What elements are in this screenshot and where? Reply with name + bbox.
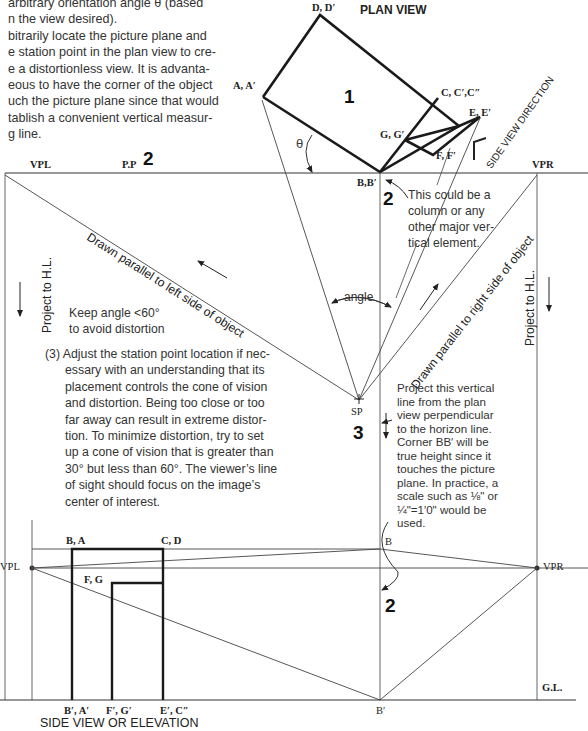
note-line: view perpendicular: [397, 408, 498, 422]
intro-line: arbitrary orientation angle θ (based: [8, 0, 258, 11]
column-step-number: 2: [383, 188, 394, 210]
label-b: B,B′: [357, 177, 377, 188]
label-g: G, G′: [380, 129, 405, 140]
gl-label: G.L.: [542, 682, 562, 693]
theta-label: θ: [296, 136, 303, 151]
note-line: other major ver-: [408, 219, 494, 235]
vpr-label: VPR: [532, 159, 554, 170]
note-line: touches the picture: [397, 462, 498, 476]
note-line: true height since it: [397, 449, 498, 463]
para-line: placement controls the cone of vision: [45, 379, 277, 395]
note-line: tical element.: [408, 235, 494, 251]
label-d: D, D′: [312, 2, 335, 13]
note-line: scale such as ⅛" or: [397, 489, 498, 503]
para-line: center of interest.: [45, 494, 277, 510]
project-vertical-note: Project this vertical line from the plan…: [397, 381, 498, 530]
intro-line: g line.: [8, 126, 258, 142]
para-line: far away can result in extreme distor-: [45, 412, 277, 428]
note-line: This could be a: [408, 187, 494, 203]
note-line: ¼"=1′0" would be: [397, 503, 498, 517]
para-line: of sight should focus on the image’s: [45, 477, 277, 493]
label-c: C, C′,C″: [441, 87, 480, 98]
elev-vpr-label: VPR: [543, 561, 563, 572]
pp-label: P.P: [122, 159, 137, 170]
sp-step-number: 3: [353, 422, 364, 444]
para-line: essary with an understanding that its: [45, 362, 277, 378]
intro-line: eous to have the corner of the object: [8, 77, 258, 93]
label-bottom-ba: B′, A′: [64, 705, 89, 716]
label-bottom-ec: E′, C″: [160, 705, 189, 716]
intro-line: uch the picture plane since that would: [8, 93, 258, 109]
para-line: up a cone of vision that is greater than: [45, 444, 277, 460]
para-line: (3) Adjust the station point location if…: [45, 346, 277, 362]
elev-vpl-label: VPL: [0, 561, 20, 572]
vpl-label: VPL: [30, 159, 51, 170]
pp-step-number: 2: [143, 148, 154, 170]
intro-line: bitrarily locate the picture plane and: [8, 28, 258, 44]
label-b-top: B: [385, 536, 392, 547]
note-line: to avoid distortion: [69, 321, 165, 337]
label-cd: C, D: [161, 535, 181, 546]
label-f: F, F′: [436, 150, 456, 161]
note-line: used.: [397, 516, 498, 530]
project-right-label: Project to H.L.: [523, 270, 537, 346]
intro-line: e a distortionless view. It is advanta-: [8, 61, 258, 77]
sp-label: SP: [351, 406, 363, 417]
para-line: 30° but less than 60°. The viewer’s line: [45, 461, 277, 477]
note-line: plane. In practice, a: [397, 476, 498, 490]
elev-step-number: 2: [385, 595, 396, 617]
note-line: Corner BB′ will be: [397, 435, 498, 449]
intro-line: tablish a convenient vertical measur-: [8, 110, 258, 126]
column-note: This could be a column or any other majo…: [408, 187, 494, 251]
perspective-construction-diagram: arbitrary orientation angle θ (based n t…: [0, 0, 588, 731]
label-fg: F, G: [84, 574, 103, 585]
plan-view-title: PLAN VIEW: [360, 3, 427, 17]
label-ba: B, A: [66, 535, 85, 546]
elevation-title: SIDE VIEW OR ELEVATION: [40, 716, 199, 730]
label-b-bottom: B′: [376, 705, 385, 716]
intro-text: arbitrary orientation angle θ (based n t…: [8, 0, 258, 143]
project-left-label: Project to H.L.: [40, 257, 54, 333]
para-line: and distortion. Being too close or too: [45, 395, 277, 411]
note-line: Keep angle <60°: [69, 305, 165, 321]
label-bottom-fg: F′, G′: [106, 705, 132, 716]
note-line: Project this vertical: [397, 381, 498, 395]
note-line: line from the plan: [397, 395, 498, 409]
note-line: to the horizon line.: [397, 422, 498, 436]
label-a: A, A′: [233, 80, 256, 91]
intro-line: e station point in the plan view to cre-: [8, 44, 258, 60]
label-e: E, E′: [469, 107, 491, 118]
angle-label: angle: [344, 290, 373, 304]
para-line: tion. To minimize distortion, try to set: [45, 428, 277, 444]
keep-angle-note: Keep angle <60° to avoid distortion: [69, 305, 165, 337]
object-number: 1: [344, 86, 355, 108]
note-line: column or any: [408, 203, 494, 219]
step3-paragraph: (3) Adjust the station point location if…: [45, 346, 277, 510]
intro-line: n the view desired).: [8, 11, 258, 27]
